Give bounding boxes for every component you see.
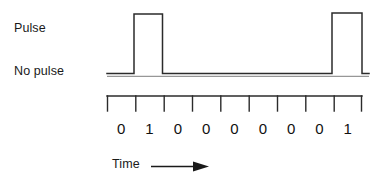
waveform-canvas	[0, 0, 378, 188]
time-axis	[107, 96, 362, 111]
bit-label: 0	[164, 118, 192, 140]
bit-label: 0	[305, 118, 333, 140]
pulse-level-label: Pulse	[14, 21, 46, 35]
bit-label: 0	[249, 118, 277, 140]
pulse-train-figure: Pulse No pulse Time 0 1 0 0 0 0 0 0 1	[0, 0, 378, 188]
bit-label: 1	[135, 118, 163, 140]
arrow-right-icon	[151, 162, 209, 172]
bit-label-row: 0 1 0 0 0 0 0 0 1	[107, 118, 362, 140]
bit-label: 0	[192, 118, 220, 140]
waveform-trace	[107, 13, 369, 74]
bit-label: 0	[107, 118, 135, 140]
bit-label: 1	[334, 118, 362, 140]
no-pulse-level-label: No pulse	[14, 64, 64, 78]
bit-label: 0	[277, 118, 305, 140]
time-axis-label: Time	[112, 157, 140, 171]
bit-label: 0	[220, 118, 248, 140]
